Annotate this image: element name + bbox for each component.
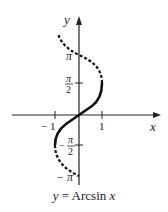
x-axis-arrow-icon <box>153 112 161 118</box>
caption-eq: = Arcsin <box>58 188 109 203</box>
y-tick-label-neg-pi-half-den: 2 <box>68 146 73 157</box>
x-tick-label-neg1: − 1 <box>41 120 55 132</box>
caption-x: x <box>110 188 116 203</box>
y-tick-label-neg-pi: − π <box>56 170 74 184</box>
x-tick-label-1: 1 <box>99 120 105 132</box>
x-axis-label: x <box>149 119 156 134</box>
y-tick-label-neg-pi-half-sign: − <box>59 140 65 151</box>
arcsin-graph: y x − 1 1 π π 2 − π 2 − π <box>0 0 168 212</box>
y-tick-label-pi-half-den: 2 <box>66 84 71 95</box>
y-axis-arrow-icon <box>76 16 82 25</box>
chart-caption: y = Arcsin x <box>0 188 168 204</box>
y-tick-label-pi: π <box>66 49 73 63</box>
y-axis-label: y <box>62 12 70 27</box>
y-tick-label-neg-pi-half-num: π <box>68 134 74 145</box>
arcsin-upper-branch <box>58 33 102 83</box>
y-tick-label-pi-half-num: π <box>66 73 72 84</box>
